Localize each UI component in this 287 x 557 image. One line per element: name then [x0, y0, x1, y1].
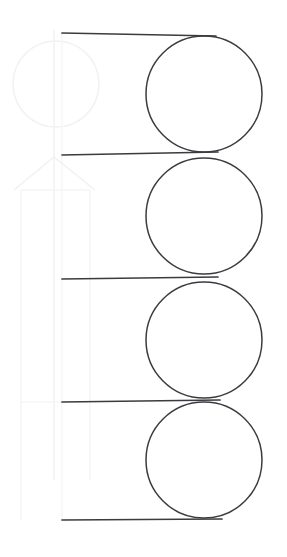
rule-2: [62, 152, 218, 155]
circle-4: [146, 402, 262, 518]
rule-5: [62, 519, 222, 520]
rule-1: [62, 33, 216, 36]
ghost-circle: [13, 41, 99, 127]
circle-2: [146, 158, 262, 274]
circle-1: [146, 36, 262, 152]
horizontal-rules-layer: [62, 33, 222, 520]
rule-3: [62, 277, 218, 279]
drawing-canvas: [0, 0, 287, 557]
rule-4: [62, 400, 220, 402]
ghost-construction-layer: [13, 30, 99, 520]
drawing-surface: [0, 0, 287, 557]
circle-3: [146, 282, 262, 398]
